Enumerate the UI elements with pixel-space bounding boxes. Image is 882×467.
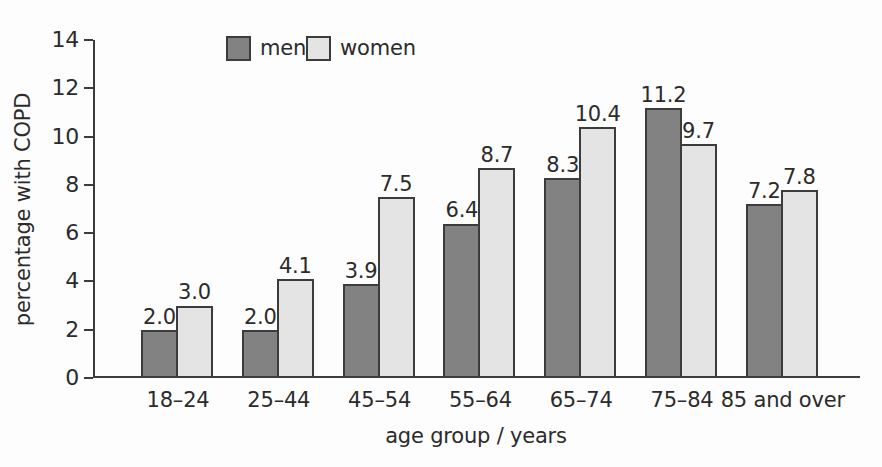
bar-group: 3.97.5	[343, 197, 415, 378]
bar-men: 2.0	[242, 330, 279, 378]
x-category-label: 55–64	[449, 389, 512, 412]
bar-women: 9.7	[680, 144, 717, 378]
x-category-label: 25–44	[247, 389, 310, 412]
y-axis	[93, 40, 95, 378]
y-tick-label: 14	[51, 29, 79, 51]
legend-women-swatch	[306, 36, 331, 61]
y-tick	[84, 184, 93, 186]
x-category-label: 65–74	[550, 389, 613, 412]
y-tick-label: 12	[51, 77, 79, 99]
bar-value-label: 9.7	[682, 120, 715, 143]
bar-value-label: 3.0	[178, 281, 211, 304]
bar-value-label: 2.0	[143, 306, 176, 329]
y-tick-label: 0	[65, 367, 79, 389]
y-tick-label: 2	[65, 319, 79, 341]
bar-value-label: 7.5	[380, 173, 413, 196]
bar-value-label: 2.0	[244, 306, 277, 329]
x-axis	[93, 376, 860, 378]
bar-value-label: 8.3	[546, 154, 579, 177]
bar-group: 11.29.7	[645, 108, 717, 378]
x-category-label: 75–84	[651, 389, 714, 412]
bar-women: 4.1	[277, 279, 314, 378]
plot-area: men women 024681012142.03.018–242.04.125…	[93, 40, 860, 378]
y-axis-title: percentage with COPD	[14, 92, 35, 325]
legend-men-swatch	[226, 36, 251, 61]
bar-women: 8.7	[478, 168, 515, 378]
bar-value-label: 6.4	[445, 199, 478, 222]
bar-women: 7.5	[378, 197, 415, 378]
legend-men-label: men	[260, 38, 306, 59]
y-tick	[84, 329, 93, 331]
y-tick-label: 10	[51, 126, 79, 148]
bar-value-label: 3.9	[345, 260, 378, 283]
y-tick	[84, 280, 93, 282]
bar-men: 3.9	[343, 284, 380, 378]
bar-group: 7.27.8	[746, 190, 818, 378]
bar-value-label: 11.2	[641, 84, 687, 107]
y-tick	[84, 39, 93, 41]
x-category-label: 85 and over	[721, 389, 845, 412]
x-axis-title: age group / years	[385, 425, 567, 448]
bar-men: 7.2	[746, 204, 783, 378]
bar-value-label: 7.8	[783, 166, 816, 189]
bar-value-label: 7.2	[748, 180, 781, 203]
y-tick	[84, 377, 93, 379]
y-tick-label: 4	[65, 270, 79, 292]
y-tick	[84, 87, 93, 89]
bar-women: 10.4	[579, 127, 616, 378]
bar-men: 11.2	[645, 108, 682, 378]
legend: men women	[226, 36, 416, 61]
y-tick-label: 8	[65, 174, 79, 196]
bar-group: 8.310.4	[544, 127, 616, 378]
bar-value-label: 4.1	[279, 255, 312, 278]
bar-group: 6.48.7	[443, 168, 515, 378]
y-tick	[84, 136, 93, 138]
bar-value-label: 8.7	[480, 144, 513, 167]
bar-women: 3.0	[176, 306, 213, 378]
copd-bar-chart-figure: percentage with COPD men women 024681012…	[0, 0, 882, 467]
bar-value-label: 10.4	[575, 103, 621, 126]
bar-group: 2.03.0	[141, 306, 213, 378]
x-category-label: 45–54	[348, 389, 411, 412]
bar-men: 6.4	[443, 224, 480, 379]
x-category-label: 18–24	[147, 389, 210, 412]
y-tick	[84, 232, 93, 234]
legend-women-label: women	[340, 38, 416, 59]
bar-men: 2.0	[141, 330, 178, 378]
y-tick-label: 6	[65, 222, 79, 244]
bar-men: 8.3	[544, 178, 581, 378]
bar-group: 2.04.1	[242, 279, 314, 378]
bar-women: 7.8	[781, 190, 818, 378]
y-axis-title-box: percentage with COPD	[8, 40, 40, 378]
